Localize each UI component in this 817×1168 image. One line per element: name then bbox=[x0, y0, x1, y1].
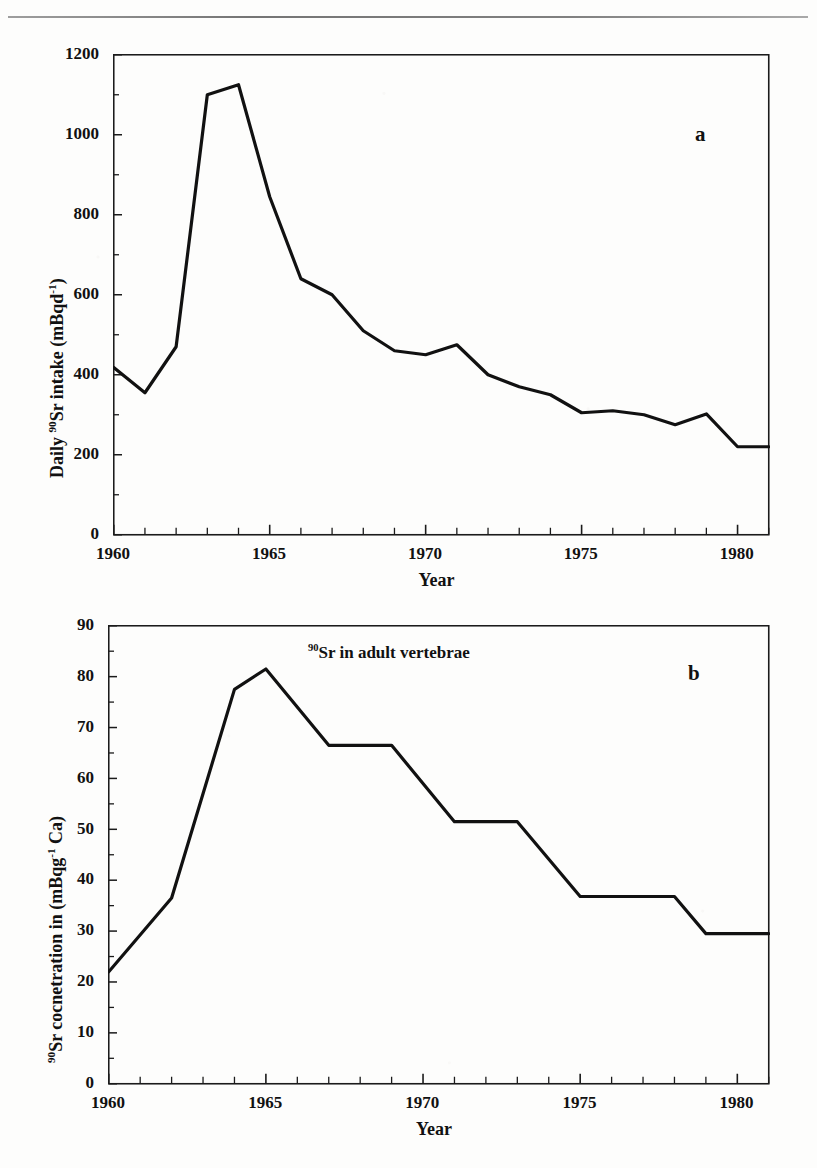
x-tick-label: 1975 bbox=[564, 544, 598, 564]
data-series-line bbox=[114, 85, 769, 447]
y-tick-label: 800 bbox=[39, 204, 99, 224]
chart-axes-a bbox=[113, 54, 770, 536]
y-tick-label: 0 bbox=[34, 1073, 94, 1093]
page-top-rule bbox=[8, 16, 808, 18]
x-tick-label: 1980 bbox=[720, 1093, 754, 1113]
y-axis-title-part: Sr intake (mBqd bbox=[47, 294, 67, 422]
data-series-line bbox=[109, 669, 769, 972]
plot-area-b: 010203040506070809019601965197019751980Y… bbox=[108, 625, 768, 1083]
plot-area-a: 0200400600800100012001960196519701975198… bbox=[113, 54, 768, 534]
chart-annotation-text: Sr in adult vertebrae bbox=[319, 643, 470, 662]
chart-axes-b bbox=[108, 625, 770, 1085]
panel-label-b: b bbox=[688, 661, 700, 686]
chart-annotation: 90Sr in adult vertebrae bbox=[308, 643, 470, 663]
chart-annotation-sup: 90 bbox=[308, 642, 319, 653]
y-tick-label: 90 bbox=[34, 615, 94, 635]
figure-panel-b: 010203040506070809019601965197019751980Y… bbox=[0, 600, 817, 1168]
x-tick-label: 1965 bbox=[248, 1093, 282, 1113]
y-axis-title-part: Daily bbox=[47, 432, 67, 478]
x-tick-label: 1975 bbox=[562, 1093, 596, 1113]
y-tick-label: 1200 bbox=[39, 44, 99, 64]
x-axis-title: Year bbox=[419, 570, 455, 591]
y-axis-title-part: -1 bbox=[45, 848, 57, 857]
y-axis-title-part: -1 bbox=[46, 284, 58, 293]
y-axis-title-part: Sr cocnetration in (mBqg bbox=[46, 858, 66, 1052]
y-axis-title-part: ) bbox=[47, 278, 67, 284]
x-tick-label: 1960 bbox=[91, 1093, 125, 1113]
y-axis-title: Daily 90Sr intake (mBqd-1) bbox=[47, 278, 68, 478]
figure-panel-a: 0200400600800100012001960196519701975198… bbox=[0, 30, 817, 605]
y-axis-title-part: Ca) bbox=[46, 816, 66, 849]
y-tick-label: 60 bbox=[34, 768, 94, 788]
y-tick-label: 80 bbox=[34, 666, 94, 686]
x-tick-label: 1960 bbox=[96, 544, 130, 564]
y-axis-title-part: 90 bbox=[46, 421, 58, 432]
x-tick-label: 1965 bbox=[252, 544, 286, 564]
y-axis-title-part: 90 bbox=[45, 1052, 57, 1063]
x-tick-label: 1980 bbox=[720, 544, 754, 564]
figure-page: 0200400600800100012001960196519701975198… bbox=[0, 0, 817, 1168]
y-tick-label: 70 bbox=[34, 717, 94, 737]
panel-label-a: a bbox=[695, 122, 706, 147]
y-tick-label: 1000 bbox=[39, 124, 99, 144]
y-axis-title: 90Sr cocnetration in (mBqg-1 Ca) bbox=[46, 816, 67, 1063]
x-tick-label: 1970 bbox=[408, 544, 442, 564]
y-tick-label: 0 bbox=[39, 524, 99, 544]
x-axis-title: Year bbox=[416, 1119, 452, 1140]
x-tick-label: 1970 bbox=[405, 1093, 439, 1113]
